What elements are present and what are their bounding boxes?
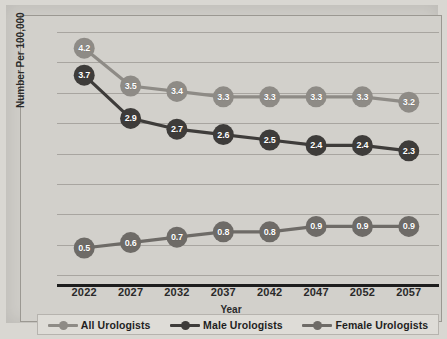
data-point-label: 0.6 bbox=[125, 238, 137, 248]
data-point-label: 3.2 bbox=[403, 97, 415, 107]
data-point-label: 3.3 bbox=[356, 92, 368, 102]
data-point-label: 3.3 bbox=[217, 92, 229, 102]
chart-plot-frame: Number Per 100,000 4.23.53.43.33.33.33.3… bbox=[20, 15, 442, 322]
legend-marker-icon bbox=[302, 320, 332, 330]
data-point-label: 2.9 bbox=[125, 113, 137, 123]
legend-label: Male Urologists bbox=[203, 319, 283, 331]
data-point-label: 2.4 bbox=[356, 140, 368, 150]
data-point-label: 0.8 bbox=[217, 227, 229, 237]
data-point-label: 3.7 bbox=[78, 70, 90, 80]
data-point-label: 3.3 bbox=[264, 92, 276, 102]
x-axis-tick-label: 2032 bbox=[164, 286, 189, 298]
chart-legend: All UrologistsMale UrologistsFemale Urol… bbox=[37, 314, 439, 335]
data-point-label: 0.9 bbox=[356, 221, 368, 231]
x-axis-tick-label: 2052 bbox=[350, 286, 375, 298]
data-point-label: 3.3 bbox=[310, 92, 322, 102]
data-point-label: 2.4 bbox=[310, 140, 322, 150]
data-point-label: 0.5 bbox=[78, 243, 90, 253]
x-axis-tick-label: 2022 bbox=[72, 286, 97, 298]
data-point-label: 2.6 bbox=[217, 130, 229, 140]
data-point-label: 3.4 bbox=[171, 86, 183, 96]
x-axis-tick-label: 2057 bbox=[396, 286, 421, 298]
legend-label: All Urologists bbox=[81, 319, 151, 331]
legend-item-3[interactable]: Female Urologists bbox=[302, 319, 428, 331]
legend-item-2[interactable]: Male Urologists bbox=[170, 319, 283, 331]
x-axis-tick-label: 2047 bbox=[303, 286, 328, 298]
legend-marker-icon bbox=[48, 320, 78, 330]
data-point-label: 2.7 bbox=[171, 124, 183, 134]
x-axis-tick-label: 2037 bbox=[211, 286, 236, 298]
x-axis-tick-label: 2027 bbox=[118, 286, 143, 298]
legend-marker-icon bbox=[170, 320, 200, 330]
data-point-label: 0.7 bbox=[171, 232, 183, 242]
scanned-page: Number Per 100,000 4.23.53.43.33.33.33.3… bbox=[6, 5, 438, 323]
data-point-label: 3.5 bbox=[125, 81, 137, 91]
data-point-label: 0.8 bbox=[264, 227, 276, 237]
data-point-label: 2.3 bbox=[403, 146, 415, 156]
data-point-label: 4.2 bbox=[78, 43, 90, 53]
legend-item-1[interactable]: All Urologists bbox=[48, 319, 151, 331]
x-axis-tick-label: 2042 bbox=[257, 286, 282, 298]
data-point-label: 2.5 bbox=[264, 135, 276, 145]
legend-label: Female Urologists bbox=[335, 319, 428, 331]
data-point-label: 0.9 bbox=[403, 221, 415, 231]
data-point-label: 0.9 bbox=[310, 221, 322, 231]
